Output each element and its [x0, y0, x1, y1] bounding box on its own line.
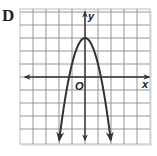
y-axis-label: y: [87, 10, 95, 22]
x-axis-label: x: [141, 78, 149, 90]
origin-label: O: [75, 80, 84, 92]
graph: y x O: [0, 0, 157, 156]
